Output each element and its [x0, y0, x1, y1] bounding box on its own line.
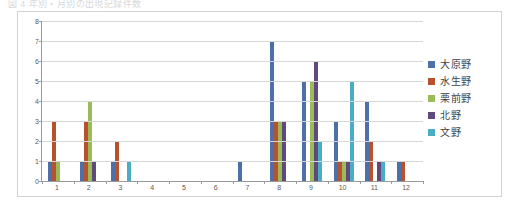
y-tick-label: 5: [22, 78, 39, 85]
bar: [56, 161, 60, 181]
x-tick-label: 10: [339, 183, 347, 192]
y-tick-label: 0: [22, 178, 39, 185]
legend-label: 栗前野: [440, 93, 472, 104]
y-tick-label: 1: [22, 158, 39, 165]
legend-item[interactable]: 水生野: [428, 73, 500, 90]
legend-swatch-icon: [428, 95, 435, 102]
y-tickmark: [39, 41, 42, 42]
y-tickmark: [39, 161, 42, 162]
x-tick-label: 6: [214, 183, 218, 192]
y-tickmark: [39, 61, 42, 62]
x-tickmark: [423, 181, 424, 184]
bar: [350, 81, 354, 181]
figure-caption: 図 4 年別・月別の出現記録件数: [8, 0, 318, 9]
legend-label: 水生野: [440, 76, 472, 87]
x-tick-label: 3: [118, 183, 122, 192]
plot-area: [41, 21, 422, 181]
y-tick-label: 7: [22, 38, 39, 45]
y-axis: 012345678: [22, 21, 39, 181]
y-tickmark: [39, 141, 42, 142]
x-axis: 123456789101112: [41, 183, 422, 197]
legend-swatch-icon: [428, 78, 435, 85]
chart-legend: 大原野水生野栗前野北野文野: [428, 56, 500, 141]
x-tick-label: 4: [150, 183, 154, 192]
bar: [127, 161, 131, 181]
x-tick-label: 5: [182, 183, 186, 192]
x-tick-label: 7: [245, 183, 249, 192]
bar: [401, 161, 405, 181]
y-tickmark: [39, 101, 42, 102]
gridline: [42, 61, 423, 62]
bar: [302, 81, 306, 181]
bar: [238, 161, 242, 181]
x-tick-label: 1: [55, 183, 59, 192]
legend-label: 大原野: [440, 59, 472, 70]
x-tick-label: 8: [277, 183, 281, 192]
bar: [92, 161, 96, 181]
chart-screenshot: 図 4 年別・月別の出現記録件数 012345678 1234567891011…: [0, 0, 515, 214]
y-tick-label: 6: [22, 58, 39, 65]
legend-item[interactable]: 文野: [428, 124, 500, 141]
gridline: [42, 41, 423, 42]
gridline: [42, 21, 423, 22]
gridline: [42, 121, 423, 122]
plot-wrapper: 012345678 123456789101112 大原野水生野栗前野北野文野: [18, 12, 503, 198]
legend-swatch-icon: [428, 129, 435, 136]
legend-item[interactable]: 大原野: [428, 56, 500, 73]
y-tickmark: [39, 21, 42, 22]
chart-frame: 012345678 123456789101112 大原野水生野栗前野北野文野: [17, 11, 502, 197]
gridline: [42, 81, 423, 82]
gridline: [42, 141, 423, 142]
y-tick-label: 8: [22, 18, 39, 25]
x-tick-label: 9: [309, 183, 313, 192]
bar: [282, 121, 286, 181]
legend-label: 北野: [440, 110, 461, 121]
legend-swatch-icon: [428, 112, 435, 119]
legend-swatch-icon: [428, 61, 435, 68]
y-tickmark: [39, 81, 42, 82]
x-tick-label: 11: [371, 183, 378, 192]
gridline: [42, 101, 423, 102]
y-tickmark: [39, 121, 42, 122]
x-tick-label: 2: [87, 183, 91, 192]
legend-item[interactable]: 栗前野: [428, 90, 500, 107]
gridline: [42, 161, 423, 162]
legend-label: 文野: [440, 127, 461, 138]
y-tick-label: 3: [22, 118, 39, 125]
y-tick-label: 2: [22, 138, 39, 145]
y-tick-label: 4: [22, 98, 39, 105]
bar: [381, 161, 385, 181]
legend-item[interactable]: 北野: [428, 107, 500, 124]
x-tick-label: 12: [402, 183, 410, 192]
